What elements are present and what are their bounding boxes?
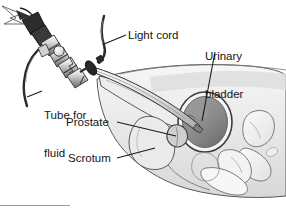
light-cord-group: [96, 16, 105, 64]
resectoscope-instrument-group: [2, 6, 99, 88]
prostate-shape: [167, 125, 188, 147]
label-urinary-bladder-line2: bladder: [205, 88, 243, 101]
label-prostate: Prostate: [66, 116, 109, 129]
label-urinary-bladder-line1: Urinary: [205, 50, 243, 63]
stopcock-knob: [54, 46, 64, 56]
label-light-cord: Light cord: [128, 29, 179, 42]
leader-light-cord: [104, 35, 126, 44]
fluid-tube-group: [24, 50, 38, 106]
label-urinary-bladder: Urinary bladder: [205, 25, 243, 113]
leader-tube-for-fluid: [27, 91, 42, 97]
label-scrotum: Scrotum: [68, 152, 111, 165]
